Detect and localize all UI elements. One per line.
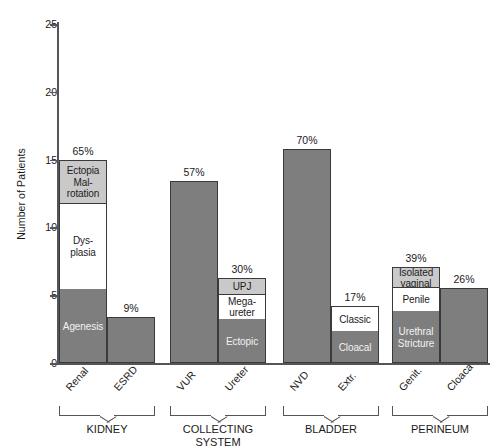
bar-segment-label: UrethralStricture bbox=[398, 326, 434, 348]
bar-cloaca bbox=[440, 288, 488, 363]
bar-ureter: UPJMega-ureterEctopic bbox=[218, 278, 266, 363]
group-bracket-right bbox=[114, 406, 155, 416]
bar-segment-label: Isolatedvaginal bbox=[399, 267, 433, 289]
bar-segment: Cloacal bbox=[332, 331, 378, 363]
y-axis-title: Number of Patients bbox=[15, 119, 27, 269]
x-axis-tick-label: Genit. bbox=[397, 365, 424, 393]
bar-segment: Penile bbox=[393, 288, 439, 311]
y-tick: 5 bbox=[0, 290, 57, 300]
x-axis-tick-label: ESRD bbox=[112, 364, 140, 393]
bar-segment: Mega-ureter bbox=[219, 295, 265, 319]
bar-percentage-label: 65% bbox=[53, 146, 113, 157]
x-axis-line bbox=[57, 363, 490, 365]
bar-segment-label: UPJ bbox=[233, 281, 252, 292]
bar-percentage-label: 26% bbox=[434, 274, 494, 285]
bar-segment-label: Cloacal bbox=[339, 342, 372, 353]
bar-renal: EctopiaMal-rotationDys-plasiaAgenesis bbox=[59, 160, 107, 363]
group-bracket-left bbox=[392, 406, 433, 416]
bar-segment-label: Classic bbox=[339, 314, 371, 325]
group-bracket-right bbox=[225, 406, 266, 416]
bar-segment: UrethralStricture bbox=[393, 311, 439, 363]
group-bracket-left bbox=[59, 406, 100, 416]
x-axis-tick-label: Cloaca bbox=[445, 361, 475, 393]
bar-segment-label: Agenesis bbox=[63, 321, 103, 332]
bar-segment-label: Mega-ureter bbox=[228, 296, 256, 318]
bar-percentage-label: 9% bbox=[101, 303, 161, 314]
y-tick-mark bbox=[50, 160, 57, 162]
bar-segment: EctopiaMal-rotation bbox=[60, 161, 106, 204]
bar-segment bbox=[284, 150, 330, 363]
bar-segment: Agenesis bbox=[60, 289, 106, 363]
bar-segment: Classic bbox=[332, 307, 378, 331]
group-bracket-right bbox=[447, 406, 488, 416]
bar-nvd bbox=[283, 149, 331, 363]
y-tick-mark bbox=[50, 227, 57, 229]
bar-segment bbox=[108, 318, 154, 363]
bar-percentage-label: 39% bbox=[386, 253, 446, 264]
bar-segment: UPJ bbox=[219, 279, 265, 295]
group-bracket-left bbox=[283, 406, 324, 416]
y-tick: 15 bbox=[0, 155, 57, 165]
group-bracket-right bbox=[338, 406, 379, 416]
bar-esrd bbox=[107, 317, 155, 363]
bar-segment bbox=[171, 182, 217, 363]
bar-segment: Ectopic bbox=[219, 319, 265, 363]
x-axis-tick-label: VUR bbox=[175, 369, 198, 393]
bar-segment: Isolatedvaginal bbox=[393, 268, 439, 288]
y-tick-mark bbox=[50, 24, 57, 26]
group-label: PERINEUM bbox=[360, 423, 495, 436]
bar-segment-label: Penile bbox=[402, 294, 429, 305]
bar-percentage-label: 57% bbox=[164, 167, 224, 178]
bar-segment bbox=[441, 289, 487, 363]
y-tick: 20 bbox=[0, 87, 57, 97]
y-tick: 10 bbox=[0, 222, 57, 232]
bar-percentage-label: 70% bbox=[277, 135, 337, 146]
bar-genit: IsolatedvaginalPenileUrethralStricture bbox=[392, 267, 440, 363]
y-tick: 25 bbox=[0, 19, 57, 29]
y-tick-mark bbox=[50, 92, 57, 94]
x-axis-tick-label: NVD bbox=[288, 369, 311, 393]
bar-segment-label: EctopiaMal-rotation bbox=[67, 165, 100, 199]
group-bracket-left bbox=[170, 406, 211, 416]
y-tick-mark bbox=[50, 295, 57, 297]
bar-vur bbox=[170, 181, 218, 363]
bar-segment-label: Ectopic bbox=[226, 336, 258, 347]
y-tick: 0 bbox=[0, 358, 57, 368]
x-axis-tick-label: Extr. bbox=[336, 370, 358, 393]
bar-segment-label: Dys-plasia bbox=[70, 235, 96, 257]
bar-chart: Number of Patients 0510152025 EctopiaMal… bbox=[0, 0, 495, 447]
x-axis-tick-label: Ureter bbox=[223, 364, 251, 393]
x-axis-tick-label: Renal bbox=[64, 365, 91, 393]
bar-segment: Dys-plasia bbox=[60, 204, 106, 289]
bar-extr: ClassicCloacal bbox=[331, 306, 379, 363]
bar-percentage-label: 30% bbox=[212, 264, 272, 275]
bar-percentage-label: 17% bbox=[325, 292, 385, 303]
y-tick-mark bbox=[50, 363, 57, 365]
